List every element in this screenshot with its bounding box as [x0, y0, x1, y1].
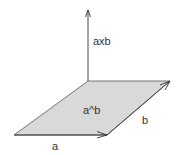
wedge-product-label: a^b	[83, 104, 100, 116]
vector-a-label: a	[52, 140, 59, 152]
wedge-product-diagram: axb a^b b a	[0, 0, 181, 155]
vector-b-label: b	[142, 114, 148, 126]
cross-product-label: axb	[93, 35, 111, 47]
